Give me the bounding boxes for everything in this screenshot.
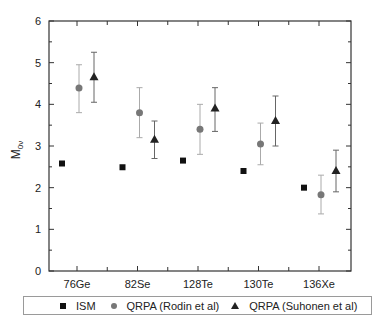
square-marker-icon: [180, 158, 186, 164]
triangle-marker-icon: [332, 166, 341, 174]
chart: 0123456 76Ge82Se128Te130Te136Xe M0ν: [0, 0, 385, 333]
x-tick-label: 136Xe: [303, 278, 335, 290]
square-marker-icon: [59, 161, 65, 167]
y-axis: 0123456: [35, 15, 351, 277]
triangle-marker-icon: [90, 72, 99, 80]
circle-marker-icon: [318, 191, 325, 198]
circle-marker-icon: [111, 303, 117, 309]
square-marker-icon: [60, 303, 66, 309]
x-tick-label: 82Se: [125, 278, 151, 290]
y-tick-label: 3: [35, 140, 41, 152]
triangle-marker-icon: [211, 104, 220, 112]
x-tick-label: 128Te: [183, 278, 213, 290]
x-tick-label: 76Ge: [64, 278, 91, 290]
x-axis: 76Ge82Se128Te130Te136Xe: [64, 21, 335, 290]
y-tick-label: 5: [35, 57, 41, 69]
y-tick-label: 4: [35, 98, 41, 110]
y-tick-label: 0: [35, 265, 41, 277]
legend-item-qrpa-rodin: QRPA (Rodin et al): [111, 300, 220, 312]
y-axis-label: M0ν: [9, 141, 25, 159]
triangle-marker-icon: [231, 302, 239, 309]
circle-marker-icon: [197, 126, 204, 133]
legend: ISM QRPA (Rodin et al) QRPA (Suhonen et …: [23, 296, 372, 315]
legend-item-ism: ISM: [60, 300, 96, 312]
legend-label: QRPA (Suhonen et al): [249, 300, 357, 312]
legend-label: ISM: [76, 300, 96, 312]
legend-label: QRPA (Rodin et al): [127, 300, 220, 312]
square-marker-icon: [301, 185, 307, 191]
circle-marker-icon: [76, 85, 83, 92]
x-tick-label: 130Te: [244, 278, 274, 290]
square-marker-icon: [241, 168, 247, 174]
legend-item-qrpa-suhonen: QRPA (Suhonen et al): [231, 300, 357, 312]
data-points: [59, 52, 341, 214]
triangle-marker-icon: [150, 135, 159, 143]
y-tick-label: 1: [35, 223, 41, 235]
triangle-marker-icon: [271, 116, 280, 124]
square-marker-icon: [120, 164, 126, 170]
circle-marker-icon: [136, 109, 143, 116]
y-tick-label: 6: [35, 15, 41, 27]
circle-marker-icon: [257, 140, 264, 147]
y-tick-label: 2: [35, 182, 41, 194]
